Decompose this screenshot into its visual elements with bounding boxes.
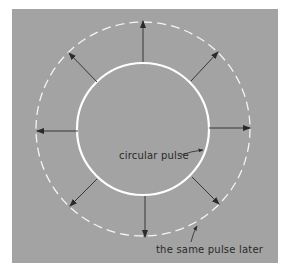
inner-pulse-label: circular pulse <box>119 150 189 161</box>
arrow-up-right-icon <box>191 52 218 81</box>
arrow-down-left-icon <box>70 179 97 206</box>
outer-pulse-label: the same pulse later <box>156 244 263 255</box>
pulse-diagram <box>0 0 293 272</box>
arrow-up-left-icon <box>69 53 97 82</box>
outer-label-leader-icon <box>191 226 197 242</box>
inner-pulse-circle <box>77 63 209 195</box>
arrow-down-right-icon <box>192 177 219 204</box>
